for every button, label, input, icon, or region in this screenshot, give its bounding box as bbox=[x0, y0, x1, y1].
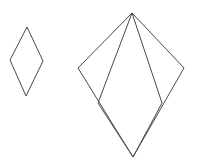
canvas-background bbox=[0, 0, 198, 162]
figure-canvas bbox=[0, 0, 198, 162]
shapes-svg bbox=[0, 0, 198, 162]
